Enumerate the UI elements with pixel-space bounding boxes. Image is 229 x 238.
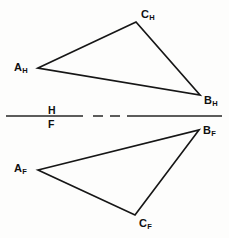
vertex-label-b-h: BH bbox=[204, 95, 217, 106]
vertex-letter-b-h: B bbox=[204, 94, 212, 106]
projection-diagram: AH CH BH H F BF AF CF bbox=[0, 0, 229, 238]
vertex-label-c-f: CF bbox=[139, 218, 152, 229]
vertex-letter-c-h: C bbox=[141, 8, 149, 20]
vertex-subscript-b-f: F bbox=[211, 129, 216, 138]
vertex-label-a-f: AF bbox=[14, 163, 27, 174]
vertex-label-a-h: AH bbox=[14, 62, 27, 73]
diagram-canvas bbox=[0, 0, 229, 238]
vertex-subscript-c-h: H bbox=[149, 13, 154, 22]
vertex-letter-c-f: C bbox=[139, 217, 147, 229]
vertex-label-c-h: CH bbox=[141, 9, 154, 20]
fold-line-label-f: F bbox=[48, 119, 54, 130]
vertex-subscript-c-f: F bbox=[147, 222, 152, 231]
vertex-letter-b-f: B bbox=[203, 124, 211, 136]
vertex-label-b-f: BF bbox=[203, 125, 216, 136]
triangle-horizontal-view bbox=[38, 22, 200, 95]
vertex-subscript-b-h: H bbox=[212, 99, 217, 108]
vertex-letter-a-f: A bbox=[14, 162, 22, 174]
vertex-letter-a-h: A bbox=[14, 61, 22, 73]
vertex-subscript-a-h: H bbox=[22, 66, 27, 75]
triangle-frontal-view bbox=[38, 130, 199, 215]
fold-line-label-h: H bbox=[48, 105, 56, 116]
vertex-subscript-a-f: F bbox=[22, 167, 27, 176]
